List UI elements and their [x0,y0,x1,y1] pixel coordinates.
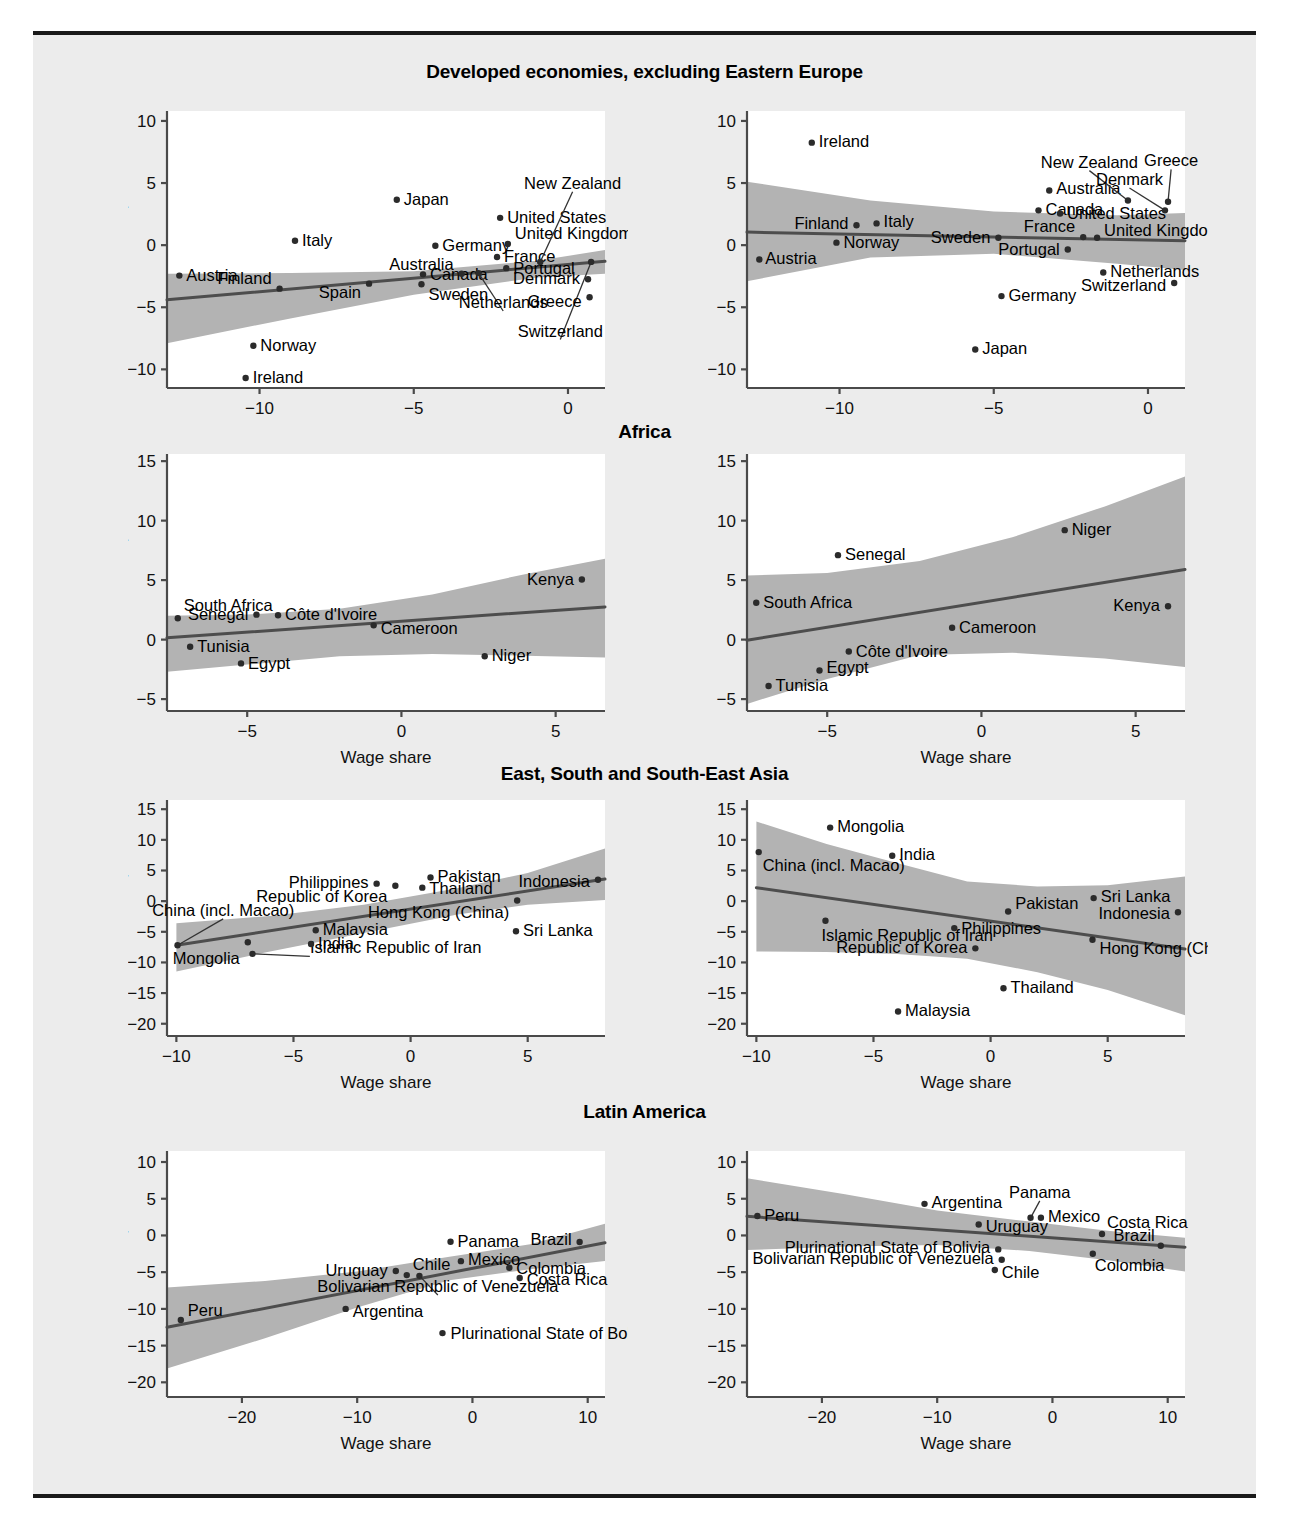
chart-latam-consumption: −20−15−10−50510−20−10010Wage sharePrivat… [128,1128,628,1478]
x-tick-label: 0 [977,722,986,741]
data-point [1165,603,1171,609]
y-tick-label: 15 [717,800,736,819]
x-tick-label: −5 [818,722,837,741]
data-point [1080,234,1086,240]
chart-asia-investment: −20−15−10−5051015−10−505Wage sharePrivat… [708,783,1208,1113]
data-point [503,265,509,271]
y-tick-label: −20 [708,1015,736,1034]
data-point [447,1238,453,1244]
data-point [245,939,251,945]
top-rule [33,31,1256,35]
point-label: Egypt [248,654,291,672]
point-label: Tunisia [197,637,250,655]
row-title-0: Developed economies, excluding Eastern E… [33,61,1256,83]
x-axis-title: Wage share [340,1434,431,1453]
y-tick-label: 5 [147,1190,156,1209]
point-label: Mongolia [837,817,905,835]
data-point [949,625,955,631]
data-point [1165,198,1171,204]
point-label: Senegal [188,605,249,623]
x-tick-label: 5 [551,722,560,741]
y-axis-title: Private investment [708,1204,709,1344]
y-axis-title: Private investment [708,848,709,988]
data-point [494,254,500,260]
point-label: Germany [442,236,511,254]
point-label: Italy [302,231,333,249]
data-point [505,241,511,247]
x-tick-label: −5 [404,399,423,418]
data-point [765,683,771,689]
x-tick-label: −10 [825,399,854,418]
point-label: Switzerland [518,322,603,340]
data-point [1100,269,1106,275]
data-point [238,660,244,666]
x-tick-label: −5 [238,722,257,741]
point-label: Greece [1144,151,1198,169]
data-point [249,951,255,957]
y-tick-label: 10 [717,1153,736,1172]
point-label: Italy [884,212,915,230]
data-point [998,293,1004,299]
y-axis-title: Private investment [708,512,709,652]
data-point [439,1330,445,1336]
data-point [506,1265,512,1271]
data-point [822,918,828,924]
data-point [250,343,256,349]
point-label: Denmark [1096,170,1164,188]
point-label: New Zealand [1041,153,1138,171]
figure-root: Developed economies, excluding Eastern E… [0,0,1289,1529]
chart-africa-investment: −5051015−505Wage sharePrivate investment… [708,438,1208,768]
data-point [754,1213,760,1219]
point-label: Brazil [1114,1226,1155,1244]
data-point [833,239,839,245]
y-tick-label: −15 [708,984,736,1003]
point-label: Brazil [530,1230,571,1248]
point-label: Bolivarian Republic of Venezuela [317,1277,559,1295]
y-tick-label: 0 [147,1226,156,1245]
y-tick-label: −15 [128,984,156,1003]
point-label: Côte d'Ivoire [856,642,948,660]
y-tick-label: −15 [708,1337,736,1356]
data-point [1038,1215,1044,1221]
data-point [419,884,425,890]
y-axis-title: Private consumption [128,505,129,659]
x-tick-label: 0 [563,399,572,418]
data-point [588,259,594,265]
data-point [342,1306,348,1312]
y-tick-label: −5 [137,1263,156,1282]
y-axis-title: Private investment [708,179,709,319]
point-label: Hong Kong (China) [1099,939,1208,957]
bottom-rule [33,1494,1256,1498]
y-axis-title: Private consumption [128,1197,129,1351]
data-point [418,281,424,287]
point-label: Indonesia [518,872,590,890]
x-tick-label: 0 [468,1408,477,1427]
x-tick-label: −5 [984,399,1003,418]
point-label: Mexico [1048,1207,1100,1225]
data-point [586,294,592,300]
point-label: Republic of Korea [836,938,968,956]
chart-asia-consumption: −20−15−10−5051015−10−505Wage sharePrivat… [128,783,628,1113]
data-point [1027,1215,1033,1221]
data-point [995,1246,1001,1252]
y-tick-label: 5 [727,174,736,193]
point-label: United Kingdom [1104,221,1208,239]
data-point [975,1221,981,1227]
point-label: China (incl. Macao) [763,856,905,874]
y-tick-label: −5 [717,690,736,709]
point-label: Austria [765,249,817,267]
data-point [292,238,298,244]
point-label: Thailand [1010,978,1073,996]
x-axis-title: Wage share [920,1073,1011,1092]
data-point [432,243,438,249]
y-tick-label: 15 [137,800,156,819]
chart-latam-investment: −20−15−10−50510−20−10010Wage sharePrivat… [708,1128,1208,1478]
data-point [972,346,978,352]
y-tick-label: 5 [147,571,156,590]
point-label: Côte d'Ivoire [285,605,377,623]
point-label: Ireland [253,368,303,386]
data-point [1005,908,1011,914]
y-tick-label: −10 [708,953,736,972]
point-label: Egypt [826,658,869,676]
data-point [517,1275,523,1281]
